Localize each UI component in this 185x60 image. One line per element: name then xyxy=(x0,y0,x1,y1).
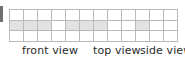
grid-cell[interactable] xyxy=(94,10,108,21)
grid-cell[interactable] xyxy=(164,10,178,21)
grid-cell[interactable] xyxy=(52,21,66,32)
label-side-view: side view xyxy=(140,43,185,58)
grid-cell[interactable] xyxy=(108,21,122,32)
grid-cell[interactable] xyxy=(10,31,24,42)
view-labels: front view top view side view xyxy=(0,43,185,60)
figure-canvas: front view top view side view xyxy=(0,0,185,60)
grid-cell[interactable] xyxy=(80,31,94,42)
grid-cell-shaded[interactable] xyxy=(80,21,94,32)
grid-cell-shaded[interactable] xyxy=(24,21,38,32)
grid-cell[interactable] xyxy=(122,31,136,42)
grid-cell-shaded[interactable] xyxy=(94,21,108,32)
left-edge-mark xyxy=(0,6,3,22)
grid-cell-shaded[interactable] xyxy=(10,21,24,32)
grid-cell[interactable] xyxy=(164,31,178,42)
grid-cell[interactable] xyxy=(108,10,122,21)
grid-cell-shaded[interactable] xyxy=(66,21,80,32)
grid-cell[interactable] xyxy=(150,10,164,21)
grid-cell[interactable] xyxy=(150,31,164,42)
grid-cell[interactable] xyxy=(94,31,108,42)
grid-cell[interactable] xyxy=(10,10,24,21)
grid-cell[interactable] xyxy=(38,31,52,42)
grid-container xyxy=(9,9,178,42)
grid-cell[interactable] xyxy=(108,31,122,42)
grid-cell[interactable] xyxy=(52,31,66,42)
grid-cell[interactable] xyxy=(122,21,136,32)
grid-cell[interactable] xyxy=(66,31,80,42)
worksheet-grid xyxy=(9,9,178,42)
grid-cell[interactable] xyxy=(164,21,178,32)
grid-cell[interactable] xyxy=(122,10,136,21)
grid-cell[interactable] xyxy=(150,21,164,32)
grid-cell-shaded[interactable] xyxy=(38,21,52,32)
grid-cell[interactable] xyxy=(24,10,38,21)
grid-cell[interactable] xyxy=(136,10,150,21)
grid-cell[interactable] xyxy=(66,10,80,21)
label-top-view: top view xyxy=(93,43,141,58)
grid-cell[interactable] xyxy=(136,31,150,42)
grid-cell[interactable] xyxy=(80,10,94,21)
label-front-view: front view xyxy=(22,43,78,58)
grid-cell-shaded[interactable] xyxy=(136,21,150,32)
grid-cell[interactable] xyxy=(24,31,38,42)
grid-cell[interactable] xyxy=(38,10,52,21)
grid-cell[interactable] xyxy=(52,10,66,21)
